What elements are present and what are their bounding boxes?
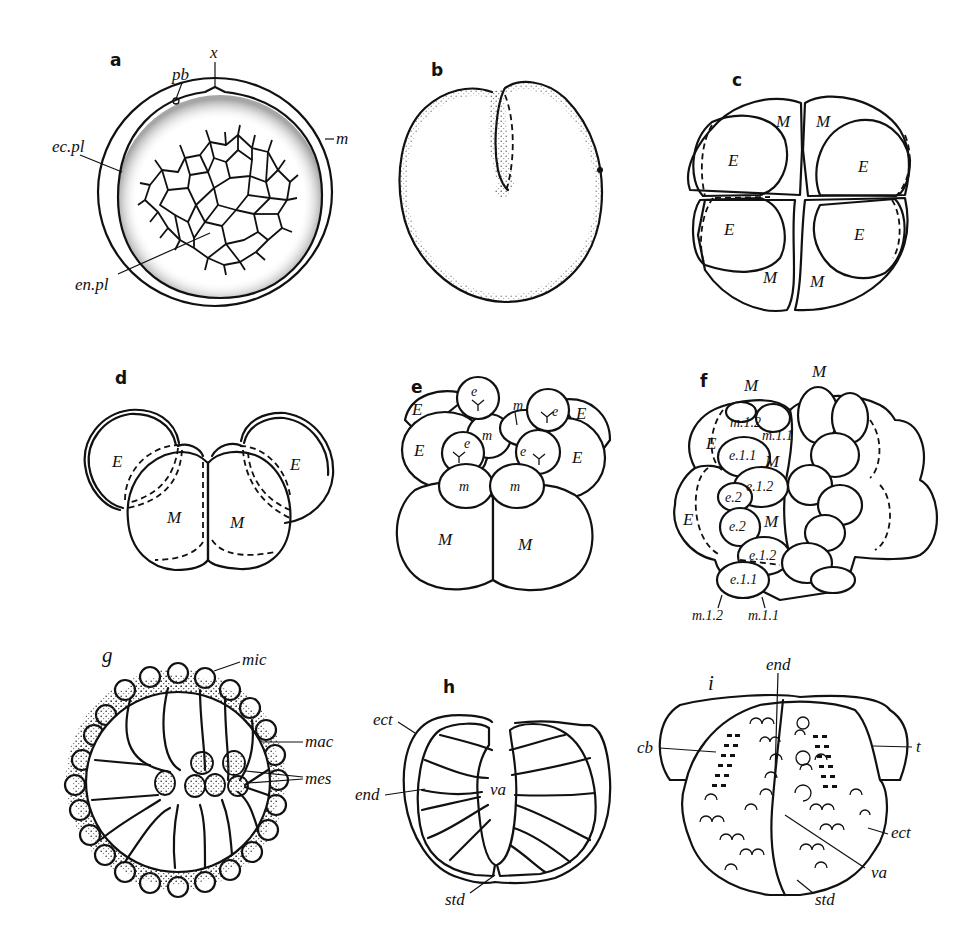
leader-m11-bottom <box>762 597 765 608</box>
dashed-E-tl <box>702 125 712 196</box>
panel-letter-h: h <box>443 677 455 697</box>
label-M-3: M <box>762 268 778 287</box>
panel-i: i <box>637 655 922 909</box>
bridge-right <box>212 444 242 456</box>
label-E-3: E <box>723 220 735 239</box>
label-E-left: E <box>111 452 123 471</box>
panel-letter-e: e <box>411 377 423 397</box>
label-m-1: m <box>513 398 523 413</box>
cell-right-8 <box>811 567 855 593</box>
leader-m12-bottom <box>718 595 722 608</box>
label-M-2: M <box>517 535 533 554</box>
label-E-2: E <box>575 404 587 423</box>
dashed-d-7 <box>248 452 290 510</box>
furrow-base <box>495 184 509 198</box>
cell-E-right-inner <box>244 418 328 475</box>
label-mes: mes <box>305 769 332 788</box>
label-e-3: e <box>464 436 470 451</box>
panel-letter-b: b <box>431 60 443 80</box>
label-m12-bottom: m.1.2 <box>692 608 723 623</box>
label-e2-upper: e.2 <box>725 490 742 505</box>
cell-M-bottom-right <box>795 198 908 310</box>
label-e12-bottom: e.1.2 <box>749 548 776 563</box>
label-E-1: E <box>411 400 423 419</box>
embryo-h-right-half <box>497 724 596 876</box>
label-M-4: M <box>809 272 825 291</box>
label-m: m <box>336 129 348 148</box>
embryo-figure: a <box>0 0 963 948</box>
label-M-1: M <box>437 530 453 549</box>
label-cb: cb <box>637 738 653 757</box>
label-std: std <box>445 890 465 909</box>
dashed-d-3 <box>128 448 178 503</box>
label-t: t <box>916 737 922 756</box>
label-E-right: E <box>289 455 301 474</box>
panel-letter-f: f <box>700 371 708 391</box>
label-va: va <box>871 863 887 882</box>
label-pb: pb <box>171 65 189 84</box>
cell-e-right-top <box>527 389 569 431</box>
label-e-1: e <box>471 384 477 399</box>
panel-b: b <box>400 60 603 302</box>
cell-E-left-inner <box>89 414 176 508</box>
label-M-right: M <box>229 513 245 532</box>
panel-a: a <box>52 43 348 306</box>
label-m11-top: m.1.1 <box>762 428 793 443</box>
label-M-1: M <box>775 112 791 131</box>
label-mic: mic <box>242 650 267 669</box>
leader-std <box>470 875 495 893</box>
egg-stipple <box>117 95 323 299</box>
label-M-left: M <box>166 508 182 527</box>
label-M-mid-2: M <box>763 512 779 531</box>
panel-letter-a: a <box>110 50 121 70</box>
label-mac: mac <box>305 732 334 751</box>
label-e11-bottom: e.1.1 <box>730 572 757 587</box>
label-e2-lower: e.2 <box>729 519 746 534</box>
label-E-1: E <box>705 434 717 453</box>
label-m-2: m <box>482 428 492 443</box>
label-ect: ect <box>891 823 912 842</box>
panel-c: c M M E E E E M M <box>688 70 910 311</box>
panel-f: f M M m.1.2 m.1.1 E e.1.1 M e.1.2 e.2 E <box>674 362 937 623</box>
label-E-4: E <box>853 225 865 244</box>
label-M-2: M <box>815 112 831 131</box>
label-E-2: E <box>857 157 869 176</box>
label-e11-top: e.1.1 <box>729 448 756 463</box>
label-M-top-1: M <box>743 376 759 395</box>
panel-letter-g: g <box>102 643 113 667</box>
label-m12-top: m.1.2 <box>730 415 761 430</box>
leader-ect <box>398 722 415 733</box>
label-x: x <box>209 43 218 62</box>
cell-e-top <box>457 377 499 419</box>
label-end: end <box>355 785 380 804</box>
label-e12-top: e.1.2 <box>746 479 773 494</box>
label-M-top-2: M <box>811 362 827 381</box>
label-m11-bottom: m.1.1 <box>748 608 779 623</box>
panel-h: h ect end va std <box>355 677 610 909</box>
panel-d: d E E M M <box>85 368 333 570</box>
panel-e: e E E E E e e e e m m m m M M <box>397 377 610 590</box>
label-en-pl: en.pl <box>75 275 109 294</box>
label-ect: ect <box>373 710 394 729</box>
label-E-1: E <box>727 151 739 170</box>
dashed-d-8 <box>212 540 275 555</box>
label-va: va <box>490 780 506 799</box>
label-E-4: E <box>571 448 583 467</box>
label-m-3: m <box>459 479 469 494</box>
panel-letter-c: c <box>732 70 742 90</box>
label-E-2: E <box>682 510 694 529</box>
label-e-2: e <box>552 404 558 419</box>
label-std: std <box>815 890 835 909</box>
label-M-mid-1: M <box>764 452 780 471</box>
label-m-4: m <box>510 479 520 494</box>
cell-E-right-outer <box>241 413 333 523</box>
label-end: end <box>766 655 791 674</box>
leader-mic <box>214 662 240 671</box>
dashed-E-br <box>892 200 900 258</box>
panel-letter-i: i <box>708 671 714 695</box>
panel-g: g <box>65 643 334 897</box>
label-E-3: E <box>413 441 425 460</box>
label-ec-pl: ec.pl <box>52 137 85 156</box>
label-e-4: e <box>520 444 526 459</box>
panel-letter-d: d <box>115 368 127 388</box>
